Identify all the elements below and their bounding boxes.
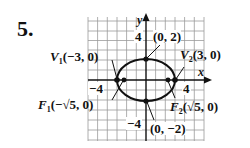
label-v2: V2(3, 0) [180, 48, 221, 64]
x-axis-arrow-icon [204, 77, 212, 84]
label-v1: V1(−3, 0) [50, 50, 98, 66]
tick-x-4: 4 [182, 82, 191, 95]
tick-y-neg4: −4 [126, 117, 142, 130]
tick-x-neg4: −4 [88, 82, 104, 95]
axes [88, 17, 207, 141]
y-axis-label: y [137, 14, 142, 26]
x-axis-label: x [198, 66, 204, 78]
ellipse-graph [0, 0, 250, 148]
label-top-point: (0, 2) [153, 30, 181, 43]
label-f1: F1(−√5, 0) [38, 98, 93, 114]
tick-y-4: 4 [134, 30, 143, 43]
label-f2: F2(√5, 0) [170, 100, 218, 116]
y-axis-arrow-icon [143, 13, 150, 21]
label-bottom-point: (0, −2) [150, 122, 186, 135]
